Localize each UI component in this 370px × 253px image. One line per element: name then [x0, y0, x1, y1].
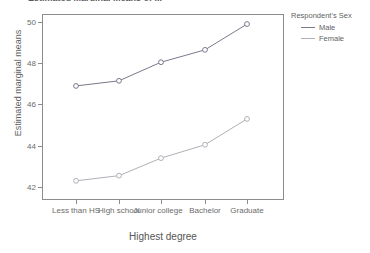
legend-swatch-female [301, 38, 315, 39]
x-tick-mark [247, 200, 248, 204]
legend: Respondent's Sex Male Female [291, 11, 369, 45]
y-tick-mark [38, 104, 42, 105]
legend-item-female: Female [291, 34, 369, 43]
legend-label-female: Female [319, 34, 344, 43]
y-tick-mark [38, 146, 42, 147]
x-tick-label: Junior college [133, 206, 183, 215]
x-tick-mark [205, 200, 206, 204]
x-tick-label: Graduate [219, 206, 275, 215]
y-tick-mark [38, 63, 42, 64]
chart-screenshot: Estimated Marginal Means of ... 50 48 46… [0, 0, 370, 253]
x-axis-title: Highest degree [42, 231, 284, 242]
legend-swatch-male [301, 27, 315, 28]
legend-label-male: Male [319, 23, 335, 32]
cut-off-chart-title: Estimated Marginal Means of ... [28, 0, 162, 1]
legend-item-male: Male [291, 23, 369, 32]
legend-title: Respondent's Sex [291, 11, 369, 20]
x-tick-mark [76, 200, 77, 204]
y-tick-mark [38, 22, 42, 23]
y-tick-mark [38, 187, 42, 188]
x-tick-mark [161, 200, 162, 204]
y-tick-label: 42 [14, 183, 36, 192]
x-tick-mark [119, 200, 120, 204]
y-axis-title: Estimated marginal means [13, 8, 23, 158]
plot-area-frame [42, 14, 284, 200]
